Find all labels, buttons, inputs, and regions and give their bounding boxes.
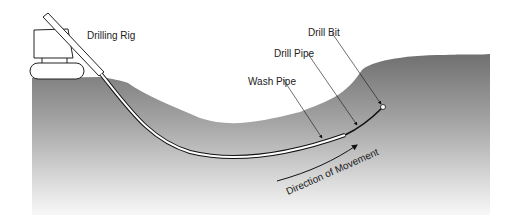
label-wash-pipe: Wash Pipe [248, 76, 296, 87]
label-drill-bit: Drill Bit [308, 27, 340, 38]
hdd-diagram: Drilling Rig Drill Bit Drill Pipe Wash P… [0, 0, 513, 224]
label-drilling-rig: Drilling Rig [87, 30, 135, 41]
label-drill-pipe: Drill Pipe [274, 48, 314, 59]
drill-bit [381, 105, 386, 110]
drilling-rig [30, 13, 104, 79]
